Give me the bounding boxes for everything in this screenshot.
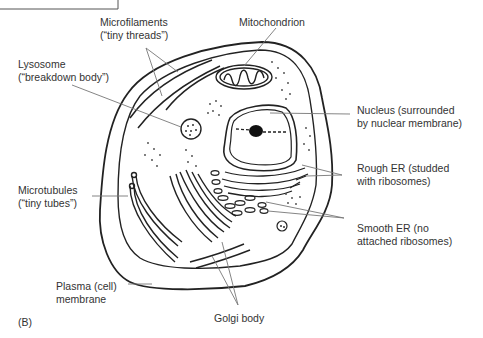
label-microtubules: Microtubules (“tiny tubes”)	[18, 184, 78, 210]
panel-label: (B)	[18, 316, 32, 329]
label-mitochondrion: Mitochondrion	[239, 16, 305, 29]
label-smooth-er: Smooth ER (no attached ribosomes)	[357, 222, 452, 248]
label-plasma-membrane: Plasma (cell) membrane	[56, 280, 117, 306]
nucleus-shape	[224, 105, 297, 170]
smooth-er-shape	[211, 171, 268, 216]
ribosome-dots	[144, 61, 311, 205]
label-microfilaments: Microfilaments (“tiny threads”)	[100, 16, 168, 42]
cytoplasm-boundary	[118, 50, 317, 268]
label-golgi-body: Golgi body	[214, 312, 264, 325]
golgi-shape	[170, 170, 250, 268]
cell-diagram: Microfilaments (“tiny threads”) Mitochon…	[0, 0, 483, 338]
vesicle-shape	[277, 221, 287, 231]
label-lysosome: Lysosome (“breakdown body”)	[18, 58, 109, 84]
label-nucleus: Nucleus (surrounded by nuclear membrane)	[357, 104, 462, 130]
label-rough-er: Rough ER (studded with ribosomes)	[357, 162, 449, 188]
rough-er-shape	[222, 168, 308, 197]
mitochondrion-shape	[216, 65, 272, 89]
lysosome-shape	[181, 119, 201, 139]
top-box-frame	[0, 0, 118, 9]
microtubules-shape	[130, 173, 183, 263]
